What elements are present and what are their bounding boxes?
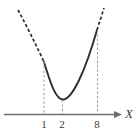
parabola-solid-branch bbox=[44, 30, 97, 100]
parabola-dashed-left-branch bbox=[18, 10, 44, 62]
tick-label-8: 8 bbox=[89, 118, 105, 130]
right-arrow-icon bbox=[114, 111, 122, 118]
tick-label-1: 1 bbox=[36, 118, 52, 130]
x-axis-label: X bbox=[125, 107, 133, 120]
tick-label-2: 2 bbox=[54, 118, 70, 130]
parabola-dashed-right-branch bbox=[97, 8, 104, 30]
parabola-figure: 1 2 8 X bbox=[0, 0, 136, 140]
